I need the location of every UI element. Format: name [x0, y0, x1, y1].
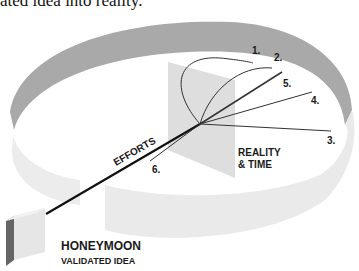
path-label-1: 1.	[252, 45, 261, 56]
path-label-4: 4.	[311, 95, 320, 106]
path-label-6: 6.	[152, 164, 161, 175]
path-label-3: 3.	[327, 135, 336, 146]
honeymoon-box-side	[6, 216, 14, 266]
reality-label-line1: REALITY	[238, 147, 281, 158]
diagram: EFFORTS REALITY & TIME HONEYMOON VALIDAT…	[0, 0, 359, 271]
path-label-2: 2.	[274, 52, 283, 63]
path-label-5: 5.	[283, 78, 292, 89]
validated-idea-label: VALIDATED IDEA	[61, 256, 136, 266]
ring-front-wall	[12, 130, 80, 205]
honeymoon-label: HONEYMOON	[61, 239, 141, 253]
reality-label-line2: & TIME	[238, 159, 272, 170]
